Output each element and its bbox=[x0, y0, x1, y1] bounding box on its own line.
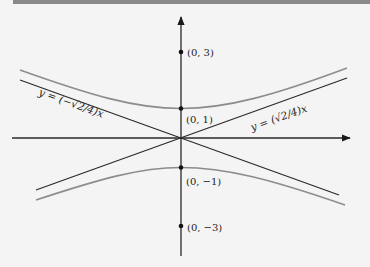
point-0-3 bbox=[179, 50, 184, 55]
label-asymptote-negative: y = (−√2/4)x bbox=[36, 85, 105, 119]
asymptote-positive-slope bbox=[36, 78, 347, 190]
label-asymptote-positive: y = (√2/4)x bbox=[248, 102, 309, 133]
point-0-neg3 bbox=[179, 224, 184, 229]
label-0-3: (0, 3) bbox=[187, 47, 214, 58]
label-0-neg1: (0, −1) bbox=[186, 176, 221, 187]
hyperbola-figure: (0, 3) (0, 1) (0, −1) (0, −3) y = (−√2/4… bbox=[0, 0, 370, 267]
point-0-1 bbox=[179, 106, 184, 111]
label-0-1: (0, 1) bbox=[186, 114, 213, 125]
label-0-neg3: (0, −3) bbox=[187, 222, 222, 233]
point-0-neg1 bbox=[179, 165, 184, 170]
